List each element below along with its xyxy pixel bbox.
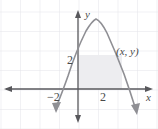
y-axis-label: y <box>85 9 90 20</box>
point-annotation-label: (x, y) <box>116 46 139 57</box>
inscribed-rectangle-shading <box>78 55 122 89</box>
x-tick-label-2: 2 <box>100 91 106 103</box>
parabola-figure: −2 2 2 x y (x, y) <box>0 0 158 129</box>
y-tick-label-2: 2 <box>67 54 73 66</box>
x-tick-label-negative-2: −2 <box>47 91 60 103</box>
plot-canvas <box>0 0 158 129</box>
x-axis-label: x <box>146 92 151 103</box>
